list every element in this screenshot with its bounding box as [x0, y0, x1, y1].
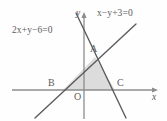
point-label-b: B [48, 78, 55, 88]
line-x-minus-y-plus-3 [35, 24, 136, 118]
point-label-a: A [90, 44, 97, 54]
figure-canvas [0, 0, 167, 121]
equation-label-line2: x−y+3=0 [97, 9, 133, 19]
y-axis-arrowhead [81, 12, 86, 18]
origin-label: O [74, 92, 81, 102]
point-label-c: C [117, 78, 124, 88]
geometry-figure: 2x+y−6=0 x−y+3=0 y x A B C O [0, 0, 167, 121]
equation-label-line1: 2x+y−6=0 [12, 26, 53, 36]
y-axis-label: y [76, 9, 80, 19]
x-axis-label: x [152, 93, 156, 103]
